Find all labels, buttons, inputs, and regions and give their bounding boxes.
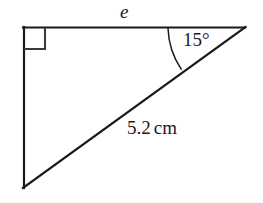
geometry-figure: e 15° 5.2cm [0, 0, 263, 203]
triangle-hypotenuse [23, 27, 246, 188]
hypotenuse-value: 5.2 [127, 117, 151, 138]
hypotenuse-label: 5.2cm [127, 118, 177, 137]
angle-arc-icon [168, 28, 181, 69]
hypotenuse-unit: cm [154, 117, 177, 138]
side-label-e: e [120, 2, 128, 21]
right-angle-marker-icon [24, 28, 45, 49]
triangle-drawing [0, 0, 263, 203]
angle-label-15-degrees: 15° [183, 30, 210, 49]
